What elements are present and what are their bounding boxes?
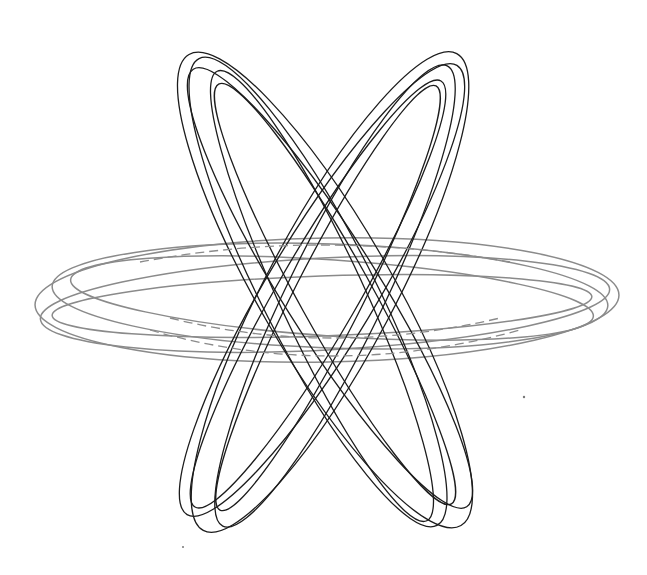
horizontal-ring-strand [50, 234, 609, 357]
ring-tilted-left-strand [179, 53, 465, 538]
ring-tilted-right-strand [147, 24, 514, 561]
ring-tilted-right-strand [190, 71, 467, 526]
ring-tilted-left-strand [187, 67, 483, 522]
interlocking-rings-figure [0, 0, 647, 575]
horizontal-ring-strand [51, 267, 593, 346]
horizontal-ring [34, 233, 620, 367]
ring-tilted-right [141, 24, 513, 561]
ring-tilted-left-strand [153, 44, 508, 532]
ring-tilted-left-strand [149, 33, 487, 551]
stray-mark [182, 546, 184, 548]
ring-tilted-left [132, 21, 518, 558]
horizontal-ring-strand [68, 242, 596, 354]
stray-mark [523, 396, 525, 398]
ring-tilted-right-strand [160, 61, 475, 527]
ring-tilted-right-strand [180, 45, 491, 547]
